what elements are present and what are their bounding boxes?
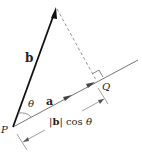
dim-arrow-right-icon: [98, 99, 104, 104]
label-theta: θ: [28, 98, 34, 109]
vector-b: [13, 14, 54, 127]
dim-theta: θ: [86, 116, 92, 127]
dim-tick-p: [17, 134, 27, 150]
label-b: b: [25, 51, 33, 65]
arrow-a-mid-icon: [63, 95, 72, 101]
dim-b: b: [52, 116, 59, 127]
angle-arc-icon: [18, 113, 31, 117]
dashed-perpendicular: [57, 9, 96, 80]
projection-diagram: b a θ P Q |b| cos θ: [0, 0, 142, 156]
label-a: a: [46, 95, 53, 108]
label-P: P: [0, 124, 8, 135]
dimension-label: |b| cos θ: [49, 116, 92, 128]
right-angle-icon: [92, 70, 103, 77]
dim-arrow-left-icon: [23, 137, 29, 142]
label-Q: Q: [102, 81, 110, 92]
arrow-b-icon: [51, 7, 57, 19]
dim-cos: cos: [63, 116, 86, 127]
